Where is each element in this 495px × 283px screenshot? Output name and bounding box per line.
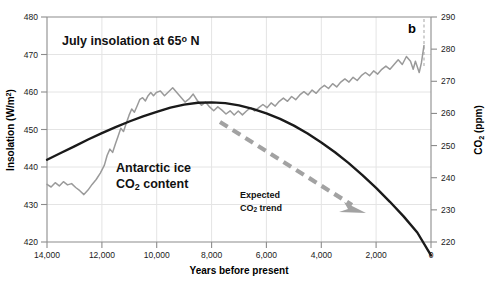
y-right-tick-label: 280 bbox=[441, 44, 455, 54]
x-axis-title: Years before present bbox=[190, 265, 290, 276]
insolation-co2-chart: 420 430 440 450 460 470 480 220 230 240 … bbox=[0, 0, 495, 283]
y-left-tick-label: 430 bbox=[24, 200, 38, 210]
y-left-tick-label: 420 bbox=[24, 237, 38, 247]
y-left-tick-labels: 420 430 440 450 460 470 480 bbox=[24, 12, 38, 247]
y-right-ticks bbox=[431, 17, 437, 242]
y-left-axis-title: Insolation (W/m2) bbox=[4, 89, 16, 171]
co2-annotation-label-line1: Antarctic ice bbox=[116, 161, 191, 175]
x-tick-label: 6,000 bbox=[256, 250, 278, 260]
x-tick-label: 4,000 bbox=[311, 250, 333, 260]
x-tick-label: 10,000 bbox=[144, 250, 170, 260]
x-tick-label: 2,000 bbox=[365, 250, 387, 260]
y-left-tick-label: 460 bbox=[24, 87, 38, 97]
trend-annotation-label-line1: Expected bbox=[240, 190, 280, 200]
y-left-tick-label: 470 bbox=[24, 50, 38, 60]
trend-annotation-label-line2: CO2 trend bbox=[240, 203, 282, 213]
x-tick-label: 12,000 bbox=[89, 250, 115, 260]
x-axis-ticks bbox=[47, 242, 431, 248]
y-left-ticks bbox=[41, 17, 47, 242]
y-right-tick-label: 220 bbox=[441, 237, 455, 247]
insolation-annotation-label: July insolation at 65o N bbox=[62, 34, 199, 48]
y-right-tick-label: 240 bbox=[441, 173, 455, 183]
x-tick-label: 14,000 bbox=[34, 250, 60, 260]
y-right-tick-label: 250 bbox=[441, 141, 455, 151]
panel-label: b bbox=[408, 21, 416, 36]
x-axis-tick-labels: 14,000 12,000 10,000 8,000 6,000 4,000 2… bbox=[34, 250, 434, 260]
y-left-tick-label: 480 bbox=[24, 12, 38, 22]
x-tick-label: 8,000 bbox=[201, 250, 223, 260]
y-right-axis-title: CO2 (ppm) bbox=[473, 105, 486, 155]
co2-annotation-label-line2: CO2 content bbox=[116, 177, 189, 192]
y-left-tick-label: 450 bbox=[24, 125, 38, 135]
y-right-tick-label: 290 bbox=[441, 12, 455, 22]
y-right-tick-label: 230 bbox=[441, 205, 455, 215]
y-right-tick-labels: 220 230 240 250 260 270 280 290 bbox=[441, 12, 455, 247]
figure-panel-b: 420 430 440 450 460 470 480 220 230 240 … bbox=[0, 0, 495, 283]
y-left-tick-label: 440 bbox=[24, 162, 38, 172]
y-right-tick-label: 260 bbox=[441, 108, 455, 118]
y-right-tick-label: 270 bbox=[441, 76, 455, 86]
